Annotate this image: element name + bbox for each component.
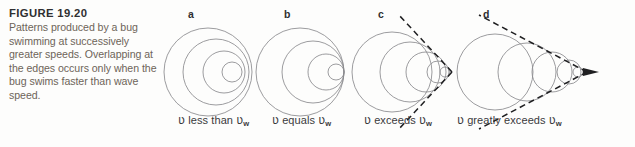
wave-velocity-symbol: ʋ	[549, 113, 556, 127]
panel-b-caption: ʋ equals ʋw	[272, 113, 331, 127]
shock-cone-line-upper	[479, 15, 587, 72]
panels-container: a ʋ less than ʋw b	[160, 0, 635, 147]
shock-cone-line-upper	[398, 14, 452, 72]
panel-a-caption: ʋ less than ʋw	[178, 113, 249, 127]
wave-circle	[308, 54, 344, 90]
wave-subscript: w	[426, 119, 432, 128]
wave-circle	[203, 51, 245, 93]
figure-number-label: FIGURE 19.20	[9, 7, 159, 20]
panel-b-diagram	[256, 16, 366, 128]
wave-subscript: w	[556, 119, 562, 128]
figure-caption-text: Patterns produced by a bug swimming at s…	[9, 21, 159, 103]
panel-d: d ʋ greatly exceeds ʋw	[465, 0, 635, 147]
wave-velocity-symbol: ʋ	[419, 113, 426, 127]
panel-a: a ʋ less than ʋw	[160, 0, 270, 147]
velocity-symbol: ʋ	[272, 113, 279, 127]
figure-caption-block: FIGURE 19.20 Patterns produced by a bug …	[9, 7, 159, 103]
wave-circle	[256, 28, 344, 116]
panel-c-diagram	[356, 16, 476, 128]
panel-d-diagram	[465, 16, 635, 128]
wave-circle	[573, 67, 583, 77]
wave-circle	[222, 62, 242, 82]
wave-subscript: w	[243, 119, 249, 128]
panel-d-caption: ʋ greatly exceeds ʋw	[457, 113, 562, 127]
wave-circle	[380, 42, 440, 102]
panel-c-caption: ʋ exceeds ʋw	[364, 113, 432, 127]
wave-subscript: w	[325, 119, 331, 128]
panel-a-diagram	[160, 16, 270, 128]
velocity-symbol: ʋ	[364, 113, 371, 127]
velocity-symbol: ʋ	[457, 113, 464, 127]
panel-b-relation-text: equals	[282, 114, 315, 126]
wave-circle	[282, 41, 344, 103]
wave-circle	[457, 34, 533, 110]
wave-circle	[164, 28, 252, 116]
direction-arrowhead	[583, 68, 599, 76]
panel-b: b ʋ equals ʋw	[256, 0, 366, 147]
velocity-symbol: ʋ	[178, 113, 185, 127]
panel-c-relation-text: exceeds	[374, 114, 416, 126]
wave-circle	[328, 64, 344, 80]
figure-container: FIGURE 19.20 Patterns produced by a bug …	[0, 0, 635, 147]
wave-circle	[183, 39, 249, 105]
panel-a-relation-text: less than	[188, 114, 233, 126]
panel-d-relation-text: greatly exceeds	[467, 114, 546, 126]
wave-circle	[557, 60, 581, 84]
